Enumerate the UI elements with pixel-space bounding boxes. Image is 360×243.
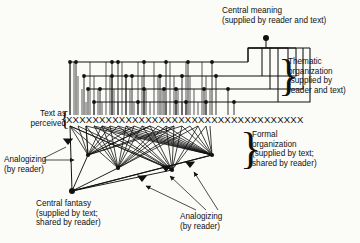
label-formal-organization: Formal organization (supplied by text; s… (252, 130, 317, 168)
label-text-as-perceived: Text as perceived (14, 109, 66, 128)
text-as-perceived-row: XXXXXXXXXXXXXXXXXXXXXXXXXXXXXXXXXXXX (66, 115, 304, 125)
label-analogizing-bottom: Analogizing (by reader) (180, 212, 222, 231)
figure-canvas: XXXXXXXXXXXXXXXXXXXXXXXXXXXXXXXXXXXX Cen… (0, 0, 360, 243)
label-central-meaning: Central meaning (supplied by reader and … (222, 6, 326, 25)
brace-text-as-perceived: { (60, 108, 70, 128)
label-analogizing-left: Analogizing (by reader) (4, 155, 46, 174)
brace-thematic: } (278, 54, 299, 98)
thematic-node-dots (68, 60, 236, 104)
label-central-fantasy: Central fantasy (supplied by text; share… (36, 199, 101, 228)
formal-organization-group (70, 126, 212, 191)
